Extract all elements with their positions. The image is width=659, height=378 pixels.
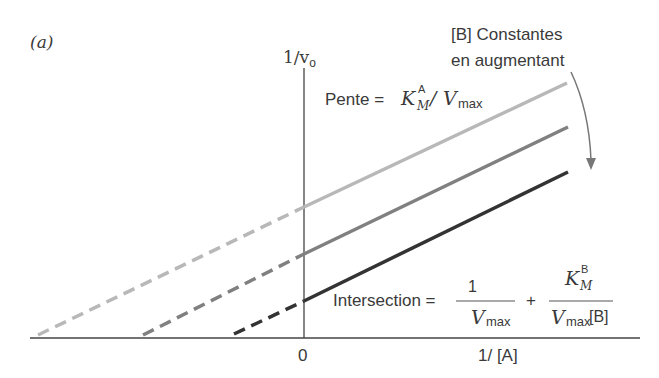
svg-text:Pente =: Pente = [325, 90, 384, 109]
svg-text:M: M [416, 99, 430, 113]
svg-text:Intersection =: Intersection = [333, 291, 436, 310]
line-light-dashed [38, 207, 304, 335]
svg-text:+: + [526, 291, 536, 310]
svg-text:max: max [458, 96, 483, 111]
svg-text:max: max [566, 314, 591, 329]
svg-text:B: B [581, 263, 588, 275]
svg-text:K: K [400, 87, 417, 109]
panel-label: (a) [30, 32, 53, 52]
line-medium-dashed [143, 254, 304, 335]
svg-text:V: V [471, 306, 487, 328]
svg-text:V: V [443, 87, 459, 109]
svg-text:V: V [551, 306, 567, 328]
series-annotation-line2: en augmentant [451, 51, 565, 70]
lineweaver-burk-diagram: (a) 1/vo [B] Constantes en augmentant Pe… [0, 0, 659, 378]
arrow-head-icon [586, 158, 596, 170]
svg-text:/: / [428, 87, 438, 109]
origin-label: 0 [298, 346, 307, 365]
intercept-label: Intersection = 1 V max + K B M V max [B] [333, 263, 613, 329]
svg-text:A: A [418, 83, 426, 95]
svg-text:max: max [486, 314, 511, 329]
svg-text:M: M [579, 279, 593, 293]
svg-text:[B]: [B] [589, 308, 609, 325]
svg-text:K: K [564, 267, 581, 289]
increasing-arrow [571, 72, 591, 160]
slope-label: Pente = K A M / V max [325, 83, 483, 113]
series-annotation-line1: [B] Constantes [451, 25, 563, 44]
x-axis-label: 1/ [A] [478, 346, 518, 365]
y-axis-label: 1/vo [283, 47, 316, 70]
svg-text:1: 1 [468, 278, 477, 295]
line-dark-dashed [234, 301, 304, 334]
